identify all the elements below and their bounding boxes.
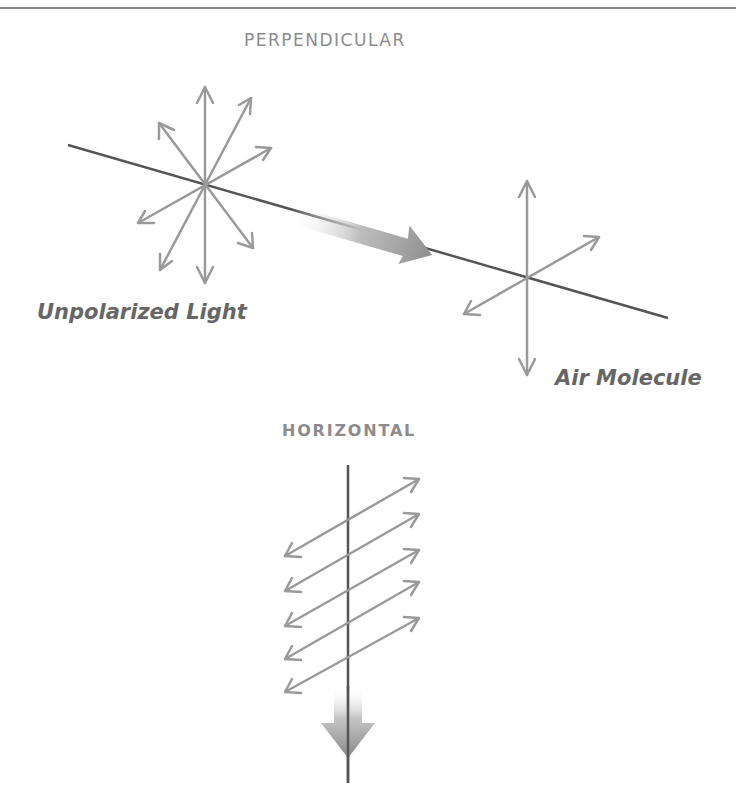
polarization-diagram xyxy=(0,0,736,808)
propagation-arrow-icon xyxy=(285,193,438,272)
unpolarized-starburst-icon xyxy=(138,87,271,283)
horizontal-polarized-arrows-icon xyxy=(285,478,419,693)
downward-direction-arrow-icon xyxy=(321,686,375,783)
